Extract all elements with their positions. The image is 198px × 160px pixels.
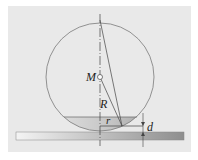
depth-arrow-down: [141, 122, 145, 126]
center-point: [98, 75, 103, 80]
label-radius-r: R: [100, 98, 107, 110]
sphere-contact-diagram: [0, 0, 198, 160]
label-depth-d: d: [147, 121, 153, 133]
label-contact-radius-r: r: [106, 115, 110, 126]
label-center-m: M: [86, 71, 96, 83]
